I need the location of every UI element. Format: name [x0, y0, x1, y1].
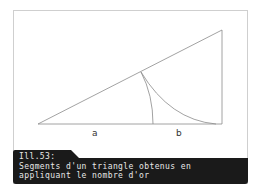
caption-number: Ill.53:: [19, 152, 56, 161]
caption-text: Ill.53: Segments d'un triangle obtenus e…: [19, 152, 191, 181]
segment-label-b: b: [176, 128, 182, 138]
caption-line-1: Segments d'un triangle obtenus en: [19, 162, 191, 171]
figure-caption: Ill.53: Segments d'un triangle obtenus e…: [13, 150, 248, 184]
arc-from-hypotenuse-to-corner: [141, 72, 216, 124]
arc-from-hypotenuse-to-base: [141, 72, 153, 124]
triangle-hypotenuse: [38, 30, 222, 124]
caption-line-2: appliquant le nombre d'or: [19, 171, 149, 180]
segment-label-a: a: [92, 128, 98, 138]
